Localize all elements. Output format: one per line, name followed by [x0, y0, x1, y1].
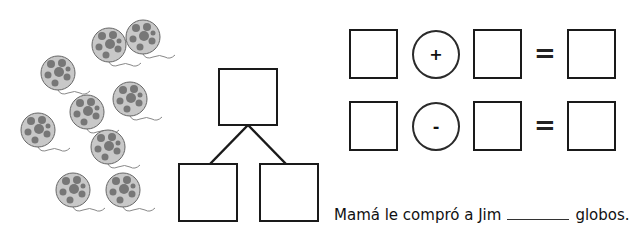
- sentence-start: Mamá le compró a Jim: [334, 206, 501, 224]
- addition-second-box[interactable]: [473, 29, 522, 79]
- number-bond-left-box[interactable]: [178, 163, 238, 222]
- equals-sign-1: =: [534, 40, 556, 66]
- minus-operator: -: [412, 102, 460, 151]
- answer-blank[interactable]: [507, 207, 569, 220]
- number-bond-top-box[interactable]: [218, 68, 278, 126]
- addition-first-box[interactable]: [349, 29, 398, 79]
- plus-operator: +: [412, 30, 460, 79]
- equals-sign-2: =: [534, 112, 556, 138]
- sentence-end: globos.: [575, 206, 629, 224]
- subtraction-result-box[interactable]: [567, 101, 616, 151]
- number-bond-right-box[interactable]: [259, 163, 319, 222]
- subtraction-second-box[interactable]: [473, 101, 522, 151]
- plus-icon: +: [429, 45, 442, 64]
- minus-icon: -: [433, 117, 440, 136]
- addition-result-box[interactable]: [567, 29, 616, 79]
- word-problem-sentence: Mamá le compró a Jimglobos.: [334, 206, 630, 224]
- subtraction-first-box[interactable]: [349, 101, 398, 151]
